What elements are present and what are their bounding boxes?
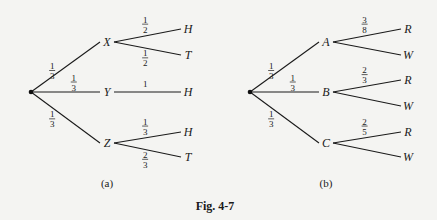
node-label-z: Z [104,136,111,150]
fraction-numerator: 2 [362,117,367,127]
outcome-label-w: W [403,150,414,164]
branch-probability: 13 [49,109,55,129]
subfigure-caption: (a) [101,177,114,190]
branch-edge [333,80,401,92]
outcome-label-r: R [403,125,412,139]
fraction-denominator: 5 [362,127,367,137]
branch-edge [31,42,100,92]
node-label-b: B [322,85,330,99]
branch-edge [333,29,401,42]
probability-value: 1 [143,79,148,89]
figure-caption: Fig. 4-7 [196,199,235,213]
branch-edge [333,42,401,55]
outcome-label-h: H [183,22,194,36]
root-node-dot [29,90,34,95]
node-label-y: Y [104,85,112,99]
node-label-x: X [102,35,111,49]
branch-edge [250,42,319,92]
outcome-label-t: T [185,150,193,164]
branch-probability: 13 [268,61,274,81]
fraction-denominator: 2 [143,25,148,35]
fraction-numerator: 2 [143,150,148,160]
fraction-numerator: 1 [50,109,55,119]
outcome-label-t: T [185,48,193,62]
outcome-probability: 12 [142,15,148,35]
outcome-probability: 13 [142,117,148,137]
subfigure-caption: (b) [320,177,333,190]
outcome-probability: 38 [362,15,368,35]
branch-edge [31,92,100,143]
fraction-denominator: 3 [50,119,55,129]
fraction-denominator: 3 [143,160,148,170]
outcome-label-w: W [403,99,414,113]
branch-edge [114,29,181,42]
fraction-denominator: 3 [50,71,55,81]
fraction-denominator: 3 [291,83,296,93]
branch-edge [333,143,401,157]
branch-probability: 13 [290,73,296,93]
fraction-numerator: 1 [143,48,148,58]
fraction-denominator: 3 [269,119,274,129]
branch-edge [114,42,181,55]
outcome-label-w: W [403,48,414,62]
outcome-probability: 23 [142,150,148,170]
branch-edge [114,143,181,157]
branch-probability: 13 [268,109,274,129]
fraction-numerator: 1 [269,109,274,119]
outcome-probability: 1 [143,79,148,89]
branch-edge [333,92,401,106]
root-node-dot [248,90,253,95]
fraction-numerator: 1 [291,73,296,83]
fraction-numerator: 3 [362,15,367,25]
branch-edge [114,132,181,143]
fraction-denominator: 2 [143,58,148,68]
fraction-denominator: 3 [362,75,367,85]
tree-a: 13X12H12T13Y1H13Z13H23T(a) [29,15,194,190]
outcome-probability: 25 [362,117,368,137]
fraction-numerator: 2 [362,65,367,75]
fraction-numerator: 1 [143,117,148,127]
outcome-label-r: R [403,22,412,36]
outcome-label-r: R [403,73,412,87]
branch-edge [250,92,319,143]
fraction-numerator: 1 [72,73,77,83]
fraction-numerator: 1 [269,61,274,71]
fraction-denominator: 8 [362,25,367,35]
tree-b: 13A38RW13B23RW13C25RW(b) [248,15,414,190]
fraction-denominator: 3 [72,83,77,93]
outcome-probability: 12 [142,48,148,68]
fraction-denominator: 3 [269,71,274,81]
fraction-denominator: 3 [143,127,148,137]
fraction-numerator: 1 [50,61,55,71]
node-label-a: A [321,35,330,49]
tree-diagram-figure: 13X12H12T13Y1H13Z13H23T(a)13A38RW13B23RW… [0,0,437,220]
branch-probability: 13 [71,73,77,93]
branch-probability: 13 [49,61,55,81]
outcome-probability: 23 [362,65,368,85]
node-label-c: C [322,136,331,150]
branch-edge [333,132,401,143]
outcome-label-h: H [183,125,194,139]
fraction-numerator: 1 [143,15,148,25]
outcome-label-h: H [183,85,194,99]
